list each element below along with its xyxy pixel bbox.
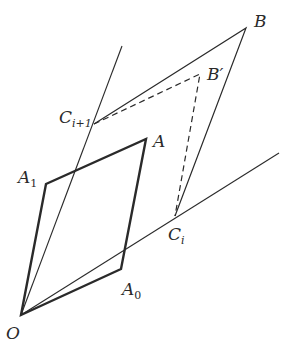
label-a: A <box>151 131 165 151</box>
label-c-i: Ci <box>168 224 185 247</box>
label-c-i-plus-1: Ci+1 <box>59 107 92 130</box>
label-o: O <box>6 323 20 343</box>
label-b: B <box>253 11 267 31</box>
label-a1: A1 <box>16 167 37 190</box>
label-a0: A0 <box>120 279 141 302</box>
dashed-path-c-i1-b-prime-c-i <box>94 74 200 216</box>
label-b-prime: B′ <box>206 64 223 84</box>
parallelogram-projection-diagram: O A0 A A1 B B′ Ci Ci+1 <box>0 0 289 345</box>
